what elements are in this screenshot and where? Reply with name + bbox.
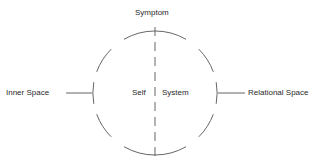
circle-arc-lower-right bbox=[199, 114, 214, 137]
top-label: Symptom bbox=[135, 8, 169, 18]
left-label: Inner Space bbox=[6, 88, 49, 98]
circle-arc-upper-right bbox=[199, 49, 214, 72]
circle-arc-right bbox=[216, 82, 217, 104]
circle-arc-upper-left bbox=[97, 49, 112, 72]
right-label: Relational Space bbox=[248, 88, 308, 98]
center-right-label: System bbox=[162, 88, 189, 98]
circle-arc-left bbox=[93, 82, 94, 104]
diagram-canvas bbox=[0, 0, 333, 165]
center-left-label: Self bbox=[132, 88, 146, 98]
circle-arc-lower-left bbox=[97, 114, 112, 137]
